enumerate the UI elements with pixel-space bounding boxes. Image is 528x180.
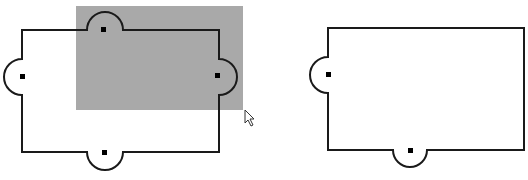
selection-rectangle — [76, 6, 243, 110]
diagram-canvas[interactable] — [0, 0, 528, 180]
port-left[interactable] — [20, 74, 25, 79]
port-top[interactable] — [101, 27, 106, 32]
port-bottom[interactable] — [102, 150, 107, 155]
port-left[interactable] — [326, 72, 331, 77]
right-component-outline[interactable] — [310, 28, 524, 167]
arrow-pointer-icon — [245, 110, 254, 126]
port-right[interactable] — [215, 73, 220, 78]
port-bottom[interactable] — [408, 148, 413, 153]
